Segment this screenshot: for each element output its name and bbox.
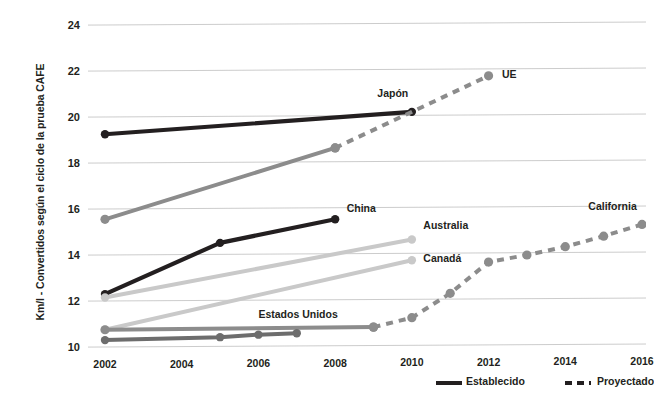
y-tick-label: 12 [44, 295, 80, 307]
data-point [331, 143, 340, 152]
data-point [331, 215, 339, 223]
x-tick-label: 2002 [93, 358, 116, 370]
x-tick-label: 2004 [170, 358, 193, 370]
series-label-australia: Australia [423, 219, 468, 231]
data-point [408, 256, 416, 264]
gridline [88, 160, 646, 163]
x-tick-label: 2014 [554, 355, 577, 367]
x-tick-label: 2010 [400, 356, 423, 368]
series-ue [100, 71, 493, 224]
series-label-china: China [347, 202, 376, 214]
series-jap-n [101, 108, 416, 139]
x-tick-label: 2012 [477, 356, 500, 368]
data-point [637, 220, 646, 229]
x-tick-label: 2016 [630, 355, 653, 367]
data-point [293, 329, 301, 337]
legend-label-dashed: Proyectado [597, 375, 654, 387]
data-point [484, 71, 493, 80]
y-tick-label: 16 [44, 203, 80, 215]
data-point [599, 232, 608, 241]
y-axis-ticks: 1012141618202224 [38, 0, 80, 402]
x-tick-label: 2008 [323, 357, 346, 369]
series-label-estados-unidos: Estados Unidos [258, 308, 337, 320]
y-tick-label: 10 [44, 341, 80, 353]
series-label-jap-n: Japón [377, 87, 408, 99]
series-california [100, 220, 646, 335]
data-point [101, 130, 109, 138]
series-label-canad-: Canadá [423, 252, 461, 264]
y-tick-label: 20 [44, 111, 80, 123]
data-point [561, 242, 570, 251]
data-point [100, 215, 109, 224]
data-point [101, 293, 109, 301]
series-label-california: California [588, 200, 636, 212]
y-tick-label: 14 [44, 249, 80, 261]
data-point [100, 325, 109, 334]
gridline [88, 298, 646, 301]
data-point [407, 313, 416, 322]
gridline [88, 252, 646, 255]
series-label-ue: UE [502, 68, 517, 80]
legend-swatch-solid [436, 381, 462, 385]
data-point [369, 323, 378, 332]
data-point [484, 257, 493, 266]
x-tick-label: 2006 [247, 357, 270, 369]
gridline [88, 68, 646, 71]
data-point [408, 235, 416, 243]
y-tick-label: 22 [44, 65, 80, 77]
data-point [101, 336, 109, 344]
data-point [254, 330, 262, 338]
gridline [88, 22, 646, 25]
data-point [522, 250, 531, 259]
legend-swatch-dashed [565, 381, 591, 385]
data-point [446, 289, 455, 298]
legend-label-solid: Establecido [466, 375, 525, 387]
gridline [88, 344, 646, 347]
y-tick-label: 18 [44, 157, 80, 169]
data-point [216, 239, 224, 247]
data-point [216, 333, 224, 341]
y-tick-label: 24 [44, 19, 80, 31]
